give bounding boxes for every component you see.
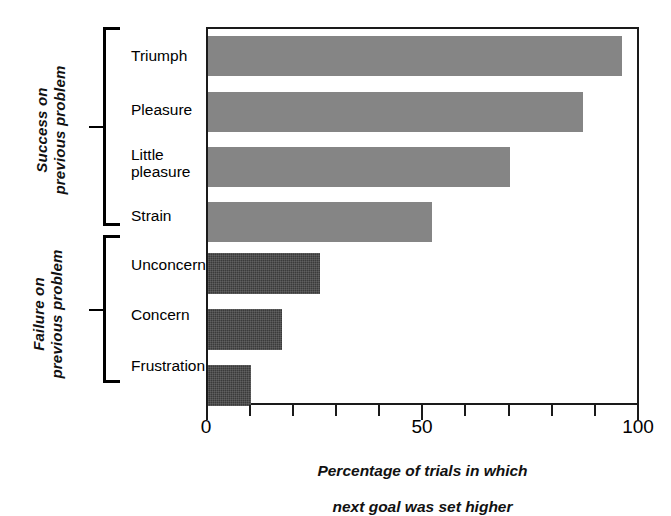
- x-tick-20: [292, 405, 294, 416]
- category-label-frustration: Frustration: [131, 357, 205, 374]
- bar-pleasure: [208, 92, 583, 132]
- bar-concern: [208, 309, 282, 350]
- x-tick-30: [335, 405, 337, 416]
- bar-unconcern: [208, 253, 320, 294]
- x-tick-90: [594, 405, 596, 416]
- x-axis-title-line2: next goal was set higher: [332, 498, 512, 515]
- x-tick-60: [464, 405, 466, 416]
- category-label-pleasure: Pleasure: [131, 101, 192, 118]
- bar-little-pleasure: [208, 147, 510, 187]
- x-tick-70: [508, 405, 510, 416]
- category-label-unconcern: Unconcern: [131, 256, 206, 273]
- bar-frustration: [208, 365, 251, 406]
- bar-strain: [208, 202, 432, 242]
- category-label-strain: Strain: [131, 207, 172, 224]
- x-axis-title-line1: Percentage of trials in which: [317, 462, 527, 479]
- category-label-triumph: Triumph: [131, 47, 187, 64]
- group-title-success: Success on previous problem: [33, 35, 69, 225]
- x-tick-80: [551, 405, 553, 416]
- group-title-failure: Failure on previous problem: [30, 229, 66, 399]
- x-tick-10: [249, 405, 251, 416]
- x-axis-title: Percentage of trials in which next goal …: [206, 444, 639, 516]
- category-label-concern: Concern: [131, 306, 190, 323]
- bracket-failure: [103, 235, 120, 383]
- x-tick-40: [378, 405, 380, 416]
- plot-area: [206, 27, 639, 405]
- bar-triumph: [208, 36, 622, 76]
- x-tick-label-50: 50: [404, 416, 440, 438]
- x-tick-label-0: 0: [191, 416, 221, 438]
- bracket-tick-success: [89, 126, 103, 128]
- bracket-tick-failure: [89, 309, 103, 311]
- bracket-success: [103, 27, 120, 226]
- category-label-little-pleasure: Little pleasure: [131, 146, 190, 180]
- x-tick-label-100: 100: [613, 416, 663, 438]
